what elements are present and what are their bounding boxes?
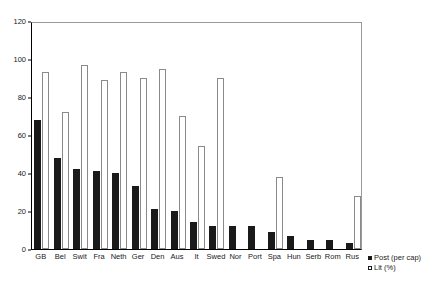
bar-post [287,236,294,249]
bar-group [71,23,90,249]
bar-lit [276,177,283,249]
legend-label-lit: Lit (%) [374,264,396,272]
bar-post [190,222,197,249]
chart-legend: Post (per cap) Lit (%) [368,253,430,273]
bar-post [54,158,61,249]
x-tick-label: Spa [268,253,281,261]
bar-group [188,23,207,249]
bar-lit [62,112,69,249]
bar-group [344,23,363,249]
x-tick-label: Serb [305,253,321,261]
bar-group [110,23,129,249]
x-tick-label: Nor [229,253,241,261]
y-tick-label: 100 [13,56,26,64]
bar-chart: 020406080100120 GBBelSwitFraNethGerDenAu… [0,0,431,289]
x-tick-label: GB [35,253,46,261]
bar-lit [120,72,127,249]
bar-post [132,186,139,249]
bar-group [129,23,148,249]
bar-group [207,23,226,249]
bar-lit [179,116,186,249]
filled-square-icon [368,256,372,260]
legend-entry-post: Post (per cap) [368,253,430,262]
bar-lit [42,72,49,249]
y-tick-label: 0 [22,246,26,254]
bar-group [90,23,109,249]
open-square-icon [368,266,372,270]
bar-post [268,232,275,249]
y-tick-label: 120 [13,18,26,26]
bar-lit [159,69,166,250]
x-tick-label: Hun [287,253,301,261]
y-tick-label: 40 [18,170,26,178]
bar-post [171,211,178,249]
bar-group [305,23,324,249]
y-tick-label: 80 [18,94,26,102]
x-tick-label: Neth [111,253,127,261]
bar-group [149,23,168,249]
bar-lit [81,65,88,249]
x-tick-label: It [194,253,198,261]
bar-post [112,173,119,249]
bar-group [266,23,285,249]
y-tick-label: 60 [18,132,26,140]
bar-post [209,226,216,249]
legend-entry-lit: Lit (%) [368,263,430,272]
y-tick-label: 20 [18,208,26,216]
x-tick-label: Bel [55,253,66,261]
legend-label-post: Post (per cap) [374,254,421,262]
bar-lit [101,80,108,249]
x-tick-label: Ger [132,253,145,261]
plot-area [31,22,362,250]
bar-lit [354,196,361,249]
x-tick-label: Swed [207,253,226,261]
y-axis: 020406080100120 [0,22,31,250]
x-tick-label: Fra [94,253,105,261]
bar-group [32,23,51,249]
bar-group [168,23,187,249]
bar-post [229,226,236,249]
bar-lit [198,146,205,249]
x-tick-label: Swit [73,253,87,261]
x-tick-label: Den [151,253,165,261]
bar-post [34,120,41,249]
bar-post [346,243,353,249]
bar-post [151,209,158,249]
bar-post [248,226,255,249]
bar-group [227,23,246,249]
bar-post [307,240,314,250]
bar-group [51,23,70,249]
bar-lit [217,78,224,249]
x-tick-label: Port [248,253,262,261]
x-tick-label: Rus [346,253,359,261]
bar-group [285,23,304,249]
bar-post [326,240,333,250]
bars-layer [32,23,361,249]
x-tick-label: Aus [171,253,184,261]
bar-post [93,171,100,249]
bar-post [73,169,80,249]
bar-group [246,23,265,249]
x-axis: GBBelSwitFraNethGerDenAusItSwedNorPortSp… [31,251,362,267]
bar-group [324,23,343,249]
bar-lit [140,78,147,249]
x-tick-label: Rom [325,253,341,261]
